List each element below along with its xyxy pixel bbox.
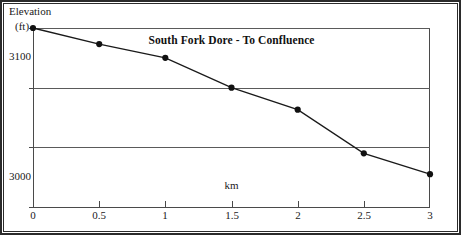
data-point-0km — [30, 25, 36, 31]
data-point-2km — [295, 107, 301, 113]
elevation-line — [33, 28, 430, 174]
data-point-2.5km — [361, 150, 367, 156]
data-point-1.5km — [228, 85, 234, 91]
data-point-3km — [427, 171, 433, 177]
data-point-1km — [162, 55, 168, 61]
elevation-markers — [30, 25, 433, 177]
data-point-0.5km — [96, 41, 102, 47]
data-series-layer — [0, 0, 461, 235]
elevation-profile-figure: Elevation (ft) 2800290030003100 00.511.5… — [0, 0, 461, 235]
